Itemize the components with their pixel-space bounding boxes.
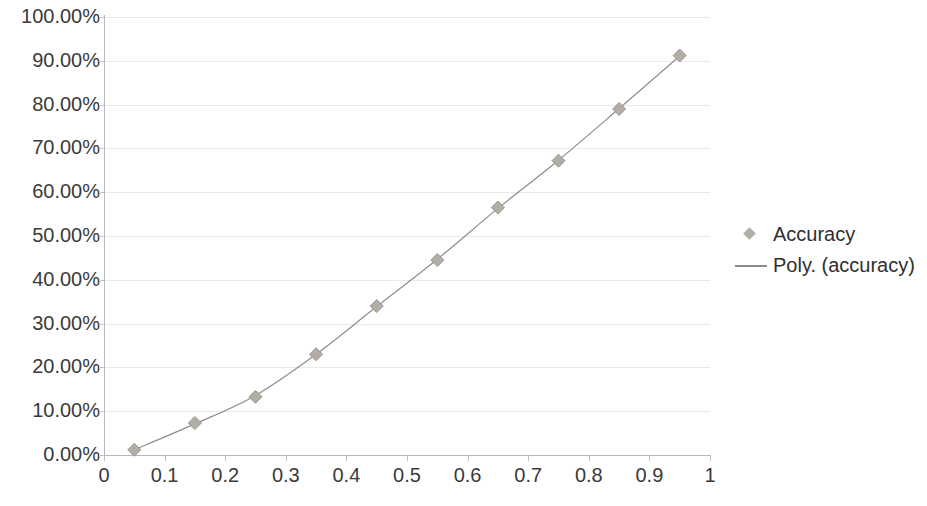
y-axis-tick-label: 40.00%	[4, 269, 100, 289]
x-axis-tick-label: 0.6	[438, 464, 498, 486]
y-axis-tick-label: 70.00%	[4, 137, 100, 157]
legend-label-accuracy: Accuracy	[773, 223, 855, 245]
y-axis-tick-label: 10.00%	[4, 400, 100, 420]
y-axis-tick	[99, 324, 104, 325]
chart-legend: Accuracy Poly. (accuracy)	[731, 218, 921, 280]
y-axis-tick	[99, 192, 104, 193]
gridline-horizontal	[104, 236, 710, 237]
x-axis-tick-label: 0.3	[256, 464, 316, 486]
x-axis-tick-label: 0.2	[195, 464, 255, 486]
gridline-horizontal	[104, 411, 710, 412]
x-axis-tick-label: 0.7	[498, 464, 558, 486]
y-axis-labels: 0.00%10.00%20.00%30.00%40.00%50.00%60.00…	[0, 0, 100, 506]
y-axis-tick-label: 100.00%	[4, 6, 100, 26]
x-axis-tick	[710, 456, 711, 461]
y-axis-tick-label: 80.00%	[4, 94, 100, 114]
x-axis-tick-label: 0.5	[377, 464, 437, 486]
y-axis-tick-label: 60.00%	[4, 181, 100, 201]
x-axis-tick	[528, 456, 529, 461]
x-axis-tick-label: 1	[680, 464, 740, 486]
y-axis-line	[104, 15, 105, 457]
gridline-horizontal	[104, 367, 710, 368]
x-axis-tick	[286, 456, 287, 461]
x-axis-tick	[468, 456, 469, 461]
y-axis-tick-label: 30.00%	[4, 313, 100, 333]
x-axis-tick-label: 0.9	[619, 464, 679, 486]
gridline-horizontal	[104, 324, 710, 325]
gridline-horizontal	[104, 61, 710, 62]
x-axis-tick-label: 0	[74, 464, 134, 486]
y-axis-tick	[99, 367, 104, 368]
gridline-horizontal	[104, 280, 710, 281]
x-axis-tick	[589, 456, 590, 461]
x-axis-tick	[346, 456, 347, 461]
x-axis-tick	[649, 456, 650, 461]
x-axis-tick-label: 0.8	[559, 464, 619, 486]
x-axis-tick	[225, 456, 226, 461]
y-axis-tick	[99, 17, 104, 18]
y-axis-tick	[99, 61, 104, 62]
legend-label-poly-accuracy: Poly. (accuracy)	[773, 254, 915, 276]
legend-item-accuracy: Accuracy	[731, 218, 921, 249]
y-axis-tick	[99, 148, 104, 149]
gridline-horizontal	[104, 192, 710, 193]
x-axis-tick-label: 0.4	[316, 464, 376, 486]
gridline-horizontal	[104, 148, 710, 149]
gridline-horizontal	[104, 17, 710, 18]
y-axis-tick-label: 20.00%	[4, 356, 100, 376]
y-axis-tick-label: 90.00%	[4, 50, 100, 70]
plot-area	[104, 17, 710, 455]
x-axis-tick	[407, 456, 408, 461]
y-axis-tick	[99, 280, 104, 281]
x-axis-tick	[165, 456, 166, 461]
y-axis-tick-label: 50.00%	[4, 225, 100, 245]
x-axis-tick-label: 0.1	[135, 464, 195, 486]
y-axis-tick	[99, 105, 104, 106]
x-axis-tick	[104, 456, 105, 461]
line-marker-icon	[731, 255, 773, 275]
chart-container: 0.00%10.00%20.00%30.00%40.00%50.00%60.00…	[0, 0, 927, 506]
y-axis-tick-label: 0.00%	[4, 444, 100, 464]
legend-item-poly-accuracy: Poly. (accuracy)	[731, 249, 921, 280]
diamond-marker-icon	[731, 224, 773, 244]
y-axis-tick	[99, 236, 104, 237]
y-axis-tick	[99, 411, 104, 412]
gridline-horizontal	[104, 105, 710, 106]
